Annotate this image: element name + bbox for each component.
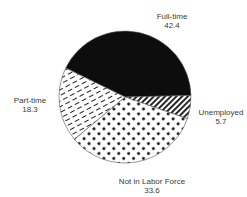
label-nilf-name: Not in Labor Force xyxy=(112,177,192,186)
pie-slices xyxy=(59,31,191,163)
label-unemployed-value: 5.7 xyxy=(196,117,246,126)
label-full-time: Full-time 42.4 xyxy=(152,12,192,30)
label-parttime-value: 18.3 xyxy=(12,105,48,114)
label-not-in-labor-force: Not in Labor Force 33.6 xyxy=(112,177,192,195)
label-parttime-name: Part-time xyxy=(12,96,48,105)
label-full-time-value: 42.4 xyxy=(152,21,192,30)
label-part-time: Part-time 18.3 xyxy=(12,96,48,114)
label-unemployed-name: Unemployed xyxy=(196,108,246,117)
label-full-time-name: Full-time xyxy=(152,12,192,21)
label-unemployed: Unemployed 5.7 xyxy=(196,108,246,126)
label-nilf-value: 33.6 xyxy=(112,186,192,195)
